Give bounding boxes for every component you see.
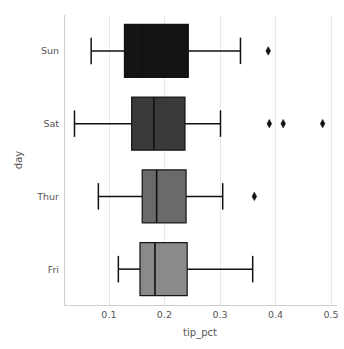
x-tick-label-3: 0.4	[268, 309, 283, 320]
boxplot-figure: 0.1 0.2 0.3 0.4 0.5 Sun Sat Thur Fri tip…	[0, 0, 344, 349]
box-sat	[132, 97, 185, 150]
x-tick-label-4: 0.5	[323, 309, 338, 320]
box-thur	[142, 170, 186, 223]
box-fri	[140, 243, 187, 296]
x-tick-label-1: 0.2	[157, 309, 172, 320]
y-axis-title: day	[13, 151, 24, 169]
y-tick-label-sun: Sun	[41, 45, 59, 56]
boxplot-canvas: 0.1 0.2 0.3 0.4 0.5 Sun Sat Thur Fri tip…	[0, 0, 344, 349]
y-tick-label-fri: Fri	[48, 264, 59, 275]
x-tick-label-2: 0.3	[212, 309, 227, 320]
box-sun	[124, 24, 188, 77]
x-tick-label-0: 0.1	[101, 309, 116, 320]
y-tick-label-sat: Sat	[43, 118, 59, 129]
y-tick-label-thur: Thur	[36, 191, 59, 202]
plot-background	[65, 15, 337, 306]
x-axis-title: tip_pct	[183, 327, 217, 339]
